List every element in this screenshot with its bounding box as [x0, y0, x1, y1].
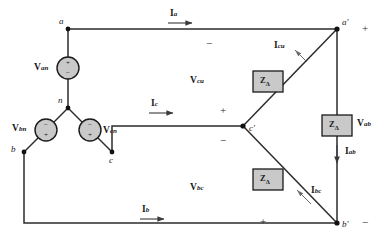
source-vbn-bottom-sign: +	[44, 132, 48, 139]
polarity-mark-top-minus: −	[206, 38, 212, 49]
polarity-mark-cprime-minus: −	[220, 135, 226, 146]
current-label-ia-sub: a	[174, 10, 178, 18]
impedance-label-zcu: ZΔ	[260, 76, 270, 87]
current-label-icu: Icu	[274, 41, 285, 51]
current-label-iab-sub: ab	[349, 148, 356, 156]
node-dot-n	[66, 106, 71, 111]
impedance-label-zbc-sub: Δ	[266, 178, 270, 185]
source-vcn-top-sign: −	[88, 122, 92, 129]
source-label-van: Van	[34, 63, 48, 73]
node-dot-c	[110, 150, 115, 155]
current-label-ib-sub: b	[146, 206, 150, 214]
polarity-mark-aprime-plus: +	[362, 23, 368, 34]
arrow-ibc	[297, 190, 311, 204]
node-label-b: b	[11, 145, 16, 154]
impedance-label-zbc: ZΔ	[260, 174, 270, 185]
source-label-vcn-text: V	[103, 125, 110, 135]
current-label-ic-sub: c	[155, 100, 158, 108]
polarity-mark-bprime-minus: −	[362, 217, 368, 228]
node-dot-bprime	[334, 220, 339, 225]
node-dot-cprime	[240, 123, 245, 128]
source-label-van-sub: an	[41, 64, 48, 72]
arrow-icu	[295, 50, 307, 62]
current-label-iab: Iab	[345, 147, 356, 157]
node-dot-b	[22, 150, 27, 155]
current-label-ibc-sub: bc	[315, 187, 322, 195]
voltage-label-vbc: Vbc	[190, 183, 203, 193]
voltage-label-vbc-sub: bc	[197, 184, 204, 192]
node-label-n: n	[58, 96, 63, 105]
voltage-label-vab-text: V	[357, 118, 364, 128]
polarity-mark-bottom-plus: +	[260, 216, 266, 227]
node-dot-aprime	[334, 26, 339, 31]
current-arrows	[140, 23, 337, 219]
voltage-label-vab: Vab	[357, 119, 371, 129]
current-label-ibc: Ibc	[311, 186, 321, 196]
circuit-schematic-svg	[0, 0, 385, 250]
source-label-vbn-sub: bn	[19, 125, 26, 133]
voltage-label-vcu: Vcu	[190, 76, 204, 86]
impedance-label-zab: ZΔ	[329, 120, 339, 131]
current-label-ia: Ia	[170, 9, 177, 19]
voltage-label-vcu-text: V	[190, 75, 197, 85]
polarity-mark-cprime-plus: +	[220, 105, 226, 116]
current-label-icu-sub: cu	[278, 42, 285, 50]
source-vcn-bottom-sign: +	[88, 132, 92, 139]
impedance-label-zcu-sub: Δ	[266, 80, 270, 87]
voltage-label-vbc-text: V	[190, 182, 197, 192]
node-label-aprime: a'	[342, 18, 348, 27]
source-label-vcn: Vcn	[103, 126, 117, 136]
source-van-top-sign: +	[66, 60, 70, 67]
circuit-diagram-canvas: a n b c a' b' c' Van + − Vbn − + Vcn − +…	[0, 0, 385, 250]
source-van-bottom-sign: −	[66, 70, 70, 77]
node-label-c: c	[109, 156, 113, 165]
source-label-van-text: V	[34, 62, 41, 72]
impedance-label-zab-sub: Δ	[335, 124, 339, 131]
source-label-vbn-text: V	[12, 123, 19, 133]
wire-b-to-bprime	[24, 152, 337, 223]
node-label-cprime: c'	[249, 124, 255, 133]
source-label-vbn: Vbn	[12, 124, 26, 134]
node-label-bprime: b'	[342, 220, 348, 229]
node-dot-a	[66, 27, 71, 32]
source-vbn-top-sign: −	[44, 122, 48, 129]
current-label-ic: Ic	[151, 99, 158, 109]
node-label-a: a	[59, 17, 64, 26]
voltage-label-vcu-sub: cu	[197, 77, 204, 85]
source-label-vcn-sub: cn	[110, 127, 117, 135]
voltage-label-vab-sub: ab	[364, 120, 371, 128]
current-label-ib: Ib	[142, 205, 149, 215]
